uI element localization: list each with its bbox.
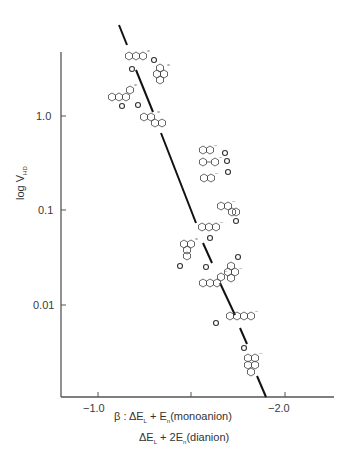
molecule-tetraphene-icon: = bbox=[109, 82, 138, 101]
x-label-text: + E bbox=[147, 410, 167, 422]
y-ticks bbox=[61, 116, 66, 305]
y-axis-label-sub: HD bbox=[22, 166, 28, 175]
svg-text:=: = bbox=[195, 236, 198, 242]
svg-text:−: − bbox=[219, 154, 223, 160]
x-label-text: ΔE bbox=[139, 431, 154, 443]
data-points bbox=[120, 58, 247, 351]
svg-text:=: = bbox=[134, 82, 137, 88]
x-label-text: (dianion) bbox=[186, 431, 229, 443]
molecule-naphthalene-icon: − bbox=[200, 142, 219, 154]
molecule-tetraphene-anion-icon: − bbox=[200, 268, 229, 287]
y-tick-label: 0.01 bbox=[33, 299, 54, 311]
molecule-chrysene-anion-icon: − bbox=[218, 198, 240, 216]
molecule-perylene-icon: − bbox=[245, 350, 264, 376]
y-tick-label: 1.0 bbox=[36, 110, 51, 122]
molecule-pyrene-icon: = bbox=[154, 62, 171, 84]
x-ticks bbox=[98, 392, 285, 397]
molecule-pyrene-dianion-icon: = bbox=[181, 236, 199, 260]
y-axis-label: log VHD bbox=[14, 166, 28, 200]
svg-text:−: − bbox=[259, 350, 263, 356]
fit-line bbox=[119, 25, 266, 397]
svg-text:−: − bbox=[215, 170, 219, 176]
x-label-text: (monoanion) bbox=[170, 410, 232, 422]
x-axis-label-line2: ΔEL + 2En(dianion) bbox=[139, 431, 229, 445]
molecule-acenaphthylene-icon: − bbox=[201, 170, 220, 182]
x-label-text: + 2E bbox=[157, 431, 183, 443]
y-tick-label: 0.1 bbox=[38, 204, 53, 216]
molecule-biphenyl-icon: − bbox=[200, 154, 224, 166]
molecule-anthracene-anion-icon: − bbox=[199, 219, 225, 231]
x-tick-label: −2.0 bbox=[268, 402, 290, 414]
chart-plot: 1.0 0.1 0.01 −1.0 −2.0 bbox=[0, 0, 353, 464]
svg-text:=: = bbox=[157, 109, 160, 115]
y-axis-label-text: log V bbox=[14, 175, 26, 200]
svg-text:−: − bbox=[232, 198, 236, 204]
svg-text:=: = bbox=[147, 48, 150, 54]
svg-text:−: − bbox=[224, 268, 228, 274]
svg-text:−: − bbox=[220, 219, 224, 225]
svg-text:=: = bbox=[167, 62, 170, 68]
molecule-tetracene-icon: − bbox=[227, 308, 260, 320]
svg-text:−: − bbox=[239, 265, 243, 271]
molecule-anthracene-icon: = bbox=[126, 48, 151, 60]
x-label-text: β : ΔE bbox=[114, 410, 144, 422]
x-tick-label: −1.0 bbox=[83, 402, 105, 414]
x-axis-label-line1: β : ΔEL + En(monoanion) bbox=[114, 410, 232, 424]
svg-text:−: − bbox=[214, 142, 218, 148]
svg-text:−: − bbox=[255, 308, 259, 314]
